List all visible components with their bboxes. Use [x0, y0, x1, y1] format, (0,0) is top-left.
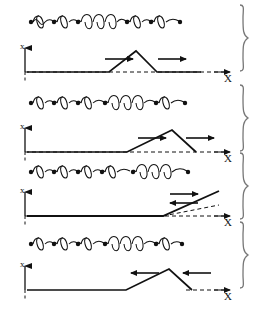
bead — [131, 170, 135, 174]
bead — [52, 170, 56, 174]
y-axis-label-4: x — [20, 259, 25, 269]
bead — [76, 20, 80, 24]
x-axis-label-3: X — [224, 216, 232, 228]
bead — [52, 242, 56, 246]
x-axis-label-4: X — [224, 290, 232, 302]
bead — [52, 101, 56, 105]
bead — [125, 20, 129, 24]
bead — [180, 242, 184, 246]
bead — [76, 101, 80, 105]
bead — [29, 170, 33, 174]
bead — [154, 101, 158, 105]
bead — [29, 20, 33, 24]
figure-canvas: x X — [0, 0, 262, 320]
bead — [100, 170, 104, 174]
bead — [52, 20, 56, 24]
bead — [183, 101, 187, 105]
bead — [76, 170, 80, 174]
x-axis-label-2: X — [224, 152, 232, 164]
x-axis-label-1: X — [224, 72, 232, 84]
bead — [154, 242, 158, 246]
background — [0, 0, 262, 320]
bead — [103, 242, 107, 246]
bead — [186, 170, 190, 174]
spring-chain-figure: x X — [0, 0, 262, 320]
bead — [29, 101, 33, 105]
bead — [103, 101, 107, 105]
y-axis-label-1: x — [20, 41, 25, 51]
y-axis-label-2: x — [20, 121, 25, 131]
bead — [178, 20, 182, 24]
bead — [149, 20, 153, 24]
bead — [29, 242, 33, 246]
bead — [76, 242, 80, 246]
y-axis-label-3: x — [20, 185, 25, 195]
